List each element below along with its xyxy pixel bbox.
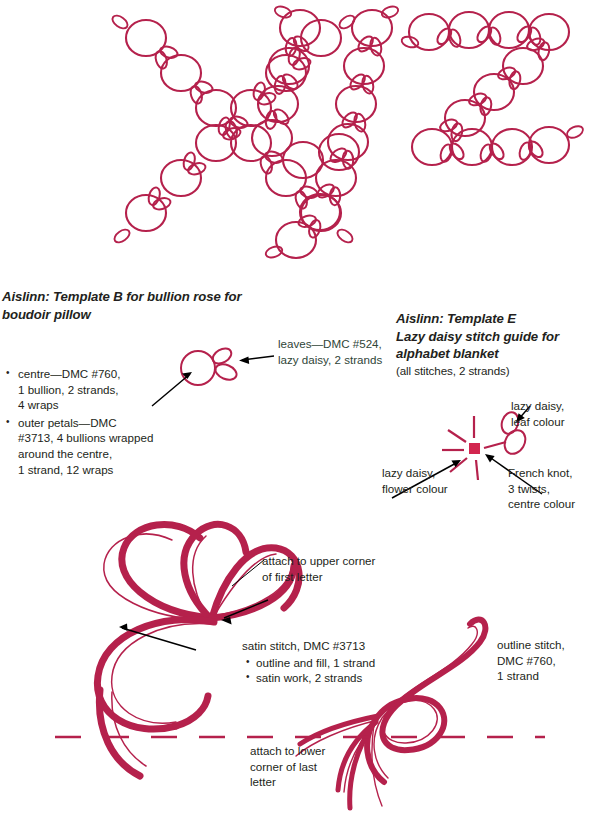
alphabet-artwork-svg bbox=[0, 0, 594, 270]
list-item: outline and fill, 1 strand bbox=[242, 655, 442, 671]
outline-stitch-label: outline stitch, DMC #760, 1 strand bbox=[497, 637, 592, 684]
french-knot-line-2: 3 twists, bbox=[508, 481, 594, 497]
lazy-daisy-leaf-line-2: leaf colour bbox=[511, 414, 594, 430]
template-e-heading-line1: Aislinn: Template E bbox=[396, 310, 594, 328]
bullet-2-line-3: around the centre, bbox=[18, 446, 204, 462]
lazy-daisy-flower-label: lazy daisy, flower colour bbox=[382, 465, 492, 496]
template-b-heading-line2: boudoir pillow bbox=[2, 306, 312, 324]
lazy-daisy-leaf-label: lazy daisy, leaf colour bbox=[511, 398, 594, 429]
alphabet-artwork bbox=[0, 0, 594, 270]
attach-lower-label: attach to lower corner of last letter bbox=[250, 743, 400, 790]
outline-stitch-line-2: DMC #760, bbox=[497, 653, 592, 669]
list-item: outer petals—DMC #3713, 4 bullions wrapp… bbox=[4, 415, 204, 477]
satin-stitch-label: satin stitch, DMC #3713 outline and fill… bbox=[242, 638, 442, 686]
outline-stitch-line-3: 1 strand bbox=[497, 668, 592, 684]
bullet-2-line-4: 1 strand, 12 wraps bbox=[18, 462, 204, 478]
lazy-daisy-flower-line-2: flower colour bbox=[382, 481, 492, 497]
letter-z bbox=[400, 12, 584, 165]
attach-lower-line-1: attach to lower bbox=[250, 743, 400, 759]
bullet-2-line-1: outer petals—DMC bbox=[18, 415, 204, 431]
template-e-subheading: (all stitches, 2 strands) bbox=[396, 363, 594, 378]
template-b-heading: Aislinn: Template B for bullion rose for… bbox=[2, 288, 312, 323]
satin-stitch-title: satin stitch, DMC #3713 bbox=[242, 638, 442, 654]
attach-upper-label: attach to upper corner of first letter bbox=[262, 553, 442, 584]
lazy-daisy-leaf-line-1: lazy daisy, bbox=[511, 398, 594, 414]
template-e-heading: Aislinn: Template E Lazy daisy stitch gu… bbox=[396, 310, 594, 378]
template-b-heading-line1: Aislinn: Template B for bullion rose for bbox=[2, 288, 312, 306]
list-item: satin work, 2 strands bbox=[242, 670, 442, 686]
template-e-heading-line3: alphabet blanket bbox=[396, 345, 594, 363]
bullet-2-line-2: #3713, 4 bullions wrapped bbox=[18, 430, 204, 446]
lazy-daisy-flower-line-1: lazy daisy, bbox=[382, 465, 492, 481]
attach-lower-line-3: letter bbox=[250, 774, 400, 790]
attach-upper-line-1: attach to upper corner bbox=[262, 553, 442, 569]
attach-upper-line-2: of first letter bbox=[262, 569, 442, 585]
outline-stitch-line-1: outline stitch, bbox=[497, 637, 592, 653]
attach-lower-line-2: corner of last bbox=[250, 759, 400, 775]
letter-y bbox=[252, 4, 400, 259]
template-e-heading-line2: Lazy daisy stitch guide for bbox=[396, 328, 594, 346]
french-knot-line-1: French knot, bbox=[508, 465, 594, 481]
letter-x bbox=[110, 13, 357, 245]
satin-stitch-bullet-list: outline and fill, 1 strand satin work, 2… bbox=[242, 655, 442, 686]
